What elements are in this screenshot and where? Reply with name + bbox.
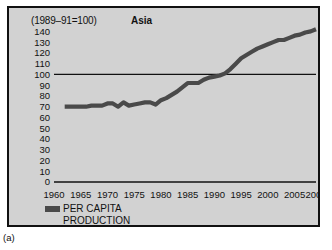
line-chart-svg: 1401301201101009080706050403020100 19601… <box>11 10 320 227</box>
figure-panel: (1989–91=100) Asia 140130120110100908070… <box>0 0 332 250</box>
chart-frame: (1989–91=100) Asia 140130120110100908070… <box>7 6 320 227</box>
y-tick-60: 60 <box>39 112 50 123</box>
series-per-capita-production <box>65 29 316 106</box>
x-tick-1990: 1990 <box>204 189 225 200</box>
y-tick-30: 30 <box>39 144 50 155</box>
figure-caption: (a) <box>3 232 15 243</box>
y-tick-120: 120 <box>34 47 50 58</box>
x-tick-2000: 2000 <box>257 189 278 200</box>
x-tick-1980: 1980 <box>150 189 171 200</box>
y-tick-70: 70 <box>39 101 50 112</box>
y-axis-tick-labels: 1401301201101009080706050403020100 <box>34 26 50 188</box>
y-tick-100: 100 <box>34 69 50 80</box>
y-tick-80: 80 <box>39 90 50 101</box>
x-tick-2005: 2005 <box>284 189 305 200</box>
y-tick-130: 130 <box>34 37 50 48</box>
legend-label-per-capita-production: PER CAPITA PRODUCTION <box>63 203 130 226</box>
x-tick-1975: 1975 <box>124 189 145 200</box>
x-axis-tick-labels: 1960196519701975198019851990199520002005… <box>43 189 320 200</box>
x-tick-1970: 1970 <box>97 189 118 200</box>
y-tick-90: 90 <box>39 80 50 91</box>
y-tick-10: 10 <box>39 166 50 177</box>
x-tick-1995: 1995 <box>231 189 252 200</box>
y-tick-140: 140 <box>34 26 50 37</box>
y-tick-20: 20 <box>39 155 50 166</box>
y-tick-50: 50 <box>39 123 50 134</box>
legend-swatch-per-capita-production <box>45 206 60 212</box>
x-tick-1985: 1985 <box>177 189 198 200</box>
x-tick-1965: 1965 <box>70 189 91 200</box>
y-tick-0: 0 <box>45 176 50 187</box>
plot-area: 1401301201101009080706050403020100 19601… <box>11 10 316 223</box>
x-tick-2009: 2009 <box>305 189 320 200</box>
y-tick-40: 40 <box>39 133 50 144</box>
y-tick-110: 110 <box>35 58 50 69</box>
x-tick-1960: 1960 <box>43 189 64 200</box>
legend: PER CAPITA PRODUCTION <box>45 203 130 226</box>
